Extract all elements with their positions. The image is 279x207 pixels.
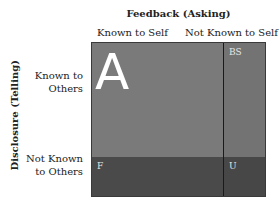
row-header-line: to Others bbox=[13, 165, 83, 178]
quadrant-unknown-label: U bbox=[229, 161, 237, 171]
column-header-not-known-to-self: Not Known to Self bbox=[185, 27, 278, 38]
row-header-line: Not Known bbox=[13, 152, 83, 165]
quadrant-blind-spot-label: BS bbox=[229, 47, 242, 57]
quadrant-blind-spot: BS bbox=[223, 43, 266, 157]
johari-window-grid: A BS F U bbox=[91, 42, 266, 197]
row-header-line: Others bbox=[13, 82, 83, 95]
row-header-not-known-to-others: Not Known to Others bbox=[13, 152, 83, 178]
quadrant-open-label: A bbox=[95, 47, 129, 97]
row-header-line: Known to bbox=[13, 69, 83, 82]
column-header-known-to-self: Known to Self bbox=[97, 27, 168, 38]
quadrant-unknown: U bbox=[223, 157, 266, 197]
quadrant-open: A bbox=[92, 43, 223, 157]
diagram-title: Feedback (Asking) bbox=[91, 8, 266, 19]
row-header-known-to-others: Known to Others bbox=[13, 69, 83, 95]
quadrant-facade: F bbox=[92, 157, 223, 197]
quadrant-facade-label: F bbox=[97, 161, 103, 171]
